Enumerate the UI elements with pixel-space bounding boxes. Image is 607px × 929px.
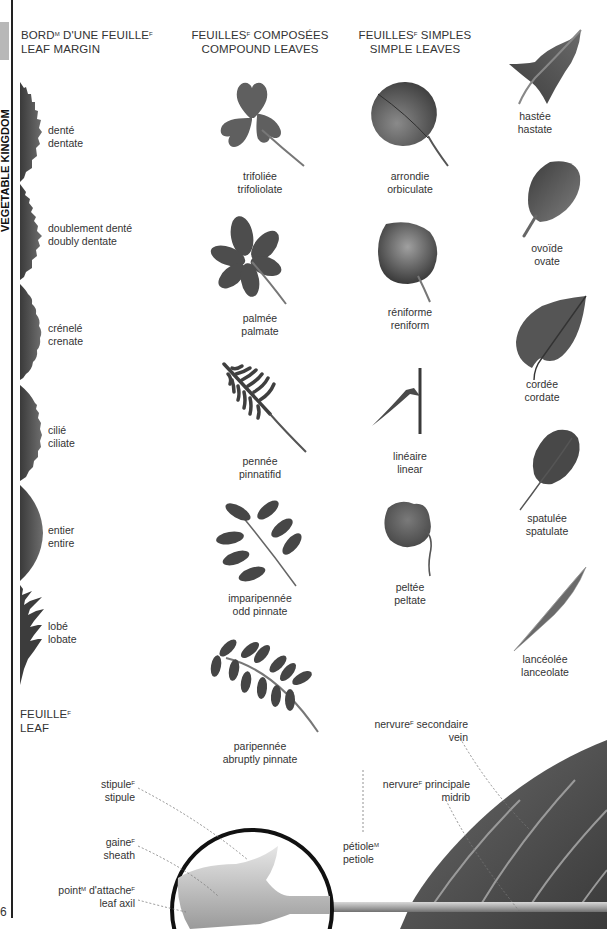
simple-label-linear: linéairelinear bbox=[360, 450, 460, 476]
compound-label-trifoliolate: trifoliéetrifoliolate bbox=[210, 170, 310, 196]
anatomy-label-sheath: gaineF sheath bbox=[60, 836, 135, 862]
simple-label-ovate: ovoïdeovate bbox=[512, 242, 582, 268]
margin-ciliate-icon bbox=[20, 385, 45, 481]
margin-dentate-icon bbox=[20, 82, 45, 182]
margin-label-crenate: crénelécrenate bbox=[48, 322, 83, 348]
margin-label-ciliate: ciliéciliate bbox=[48, 424, 75, 450]
simple-label-peltate: peltéepeltate bbox=[360, 581, 460, 607]
lanceolate-leaf-icon bbox=[510, 565, 590, 655]
anatomy-label-stipule: stipuleF stipule bbox=[60, 778, 135, 804]
header-compound-leaves: FEUILLESF COMPOSÉES COMPOUND LEAVES bbox=[190, 28, 330, 56]
ovate-leaf-icon bbox=[520, 160, 590, 240]
header-simple-leaves: FEUILLESF SIMPLES SIMPLE LEAVES bbox=[355, 28, 475, 56]
compound-label-palmate: palméepalmate bbox=[210, 312, 310, 338]
spatulate-leaf-icon bbox=[512, 428, 587, 513]
trifoliolate-leaf-icon bbox=[212, 78, 312, 170]
odd-pinnate-leaf-icon bbox=[212, 500, 312, 592]
margin-crenate-icon bbox=[20, 284, 45, 380]
section-title: VEGETABLE KINGDOM bbox=[0, 62, 11, 232]
simple-label-cordate: cordéecordate bbox=[512, 378, 572, 404]
margin-lobate-icon bbox=[20, 585, 45, 685]
palmate-leaf-icon bbox=[210, 218, 310, 310]
simple-label-lanceolate: lancéoléelanceolate bbox=[505, 653, 585, 679]
simple-label-spatulate: spatuléespatulate bbox=[512, 512, 582, 538]
section-tab bbox=[0, 22, 9, 60]
anatomy-label-midrib: nervureF principale midrib bbox=[340, 778, 470, 804]
margin-entire-icon bbox=[20, 485, 45, 581]
margin-doubly-dentate-icon bbox=[20, 184, 45, 280]
pinnatifid-leaf-icon bbox=[220, 362, 310, 454]
compound-label-pinnatifid: pennéepinnatifid bbox=[210, 455, 310, 481]
simple-label-orbiculate: arrondieorbiculate bbox=[360, 170, 460, 196]
orbiculate-leaf-icon bbox=[370, 80, 460, 170]
margin-label-lobate: lobélobate bbox=[48, 620, 77, 646]
hastate-leaf-icon bbox=[505, 28, 585, 108]
margin-label-entire: entierentire bbox=[48, 524, 74, 550]
reniform-leaf-icon bbox=[378, 222, 458, 312]
header-leaf-margin: BORDM D'UNE FEUILLEF LEAF MARGIN bbox=[21, 28, 153, 56]
margin-label-dentate: dentédentate bbox=[48, 124, 83, 150]
anatomy-label-vein: nervureF secondaire vein bbox=[350, 718, 468, 744]
simple-label-hastate: hastéehastate bbox=[500, 110, 570, 136]
compound-label-odd-pinnate: imparipennéeodd pinnate bbox=[205, 592, 315, 618]
margin-label-doubly-dentate: doublement dentédoubly dentate bbox=[48, 222, 132, 248]
anatomy-label-leaf-axil: pointM d'attacheF leaf axil bbox=[30, 884, 135, 910]
simple-label-reniform: réniformereniform bbox=[360, 306, 460, 332]
anatomy-label-petiole: pétioleM petiole bbox=[343, 840, 379, 866]
peltate-leaf-icon bbox=[380, 500, 450, 580]
cordate-leaf-icon bbox=[512, 294, 592, 384]
linear-leaf-icon bbox=[370, 368, 430, 438]
